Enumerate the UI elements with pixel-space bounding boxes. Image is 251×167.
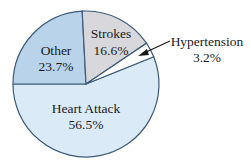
label-heart-attack-name: Heart Attack (52, 101, 121, 116)
pie-chart: Strokes 16.6% Other 23.7% Heart Attack 5… (0, 0, 251, 167)
label-other-value: 23.7% (39, 59, 74, 74)
label-strokes-value: 16.6% (94, 43, 129, 58)
label-hypertension-value: 3.2% (193, 50, 221, 65)
label-strokes-name: Strokes (91, 26, 132, 41)
label-heart-attack-value: 56.5% (69, 117, 104, 132)
label-hypertension-name: Hypertension (171, 34, 244, 49)
label-other-name: Other (41, 43, 72, 58)
